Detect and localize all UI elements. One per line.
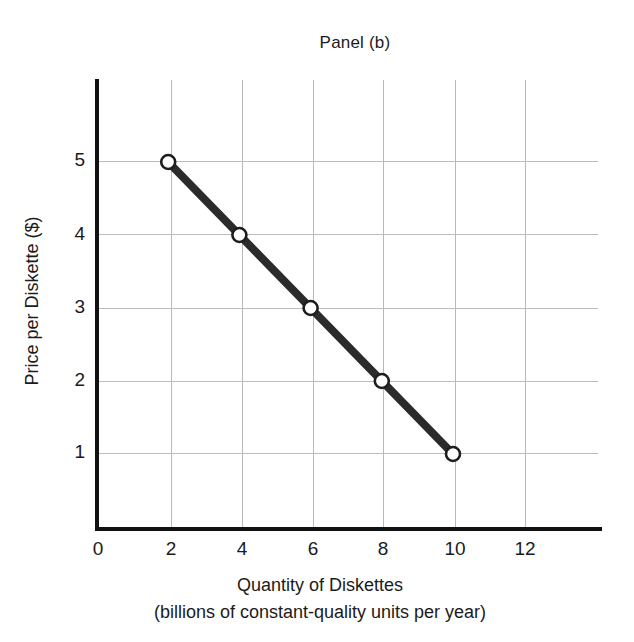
gridline-horizontal bbox=[97, 381, 598, 382]
gridline-vertical bbox=[455, 80, 456, 527]
y-axis-label: Price per Diskette ($) bbox=[21, 141, 43, 461]
gridline-horizontal bbox=[97, 161, 598, 162]
x-tick-label-0: 0 bbox=[78, 537, 118, 561]
gridline-horizontal bbox=[97, 308, 598, 309]
gridline-horizontal bbox=[97, 453, 598, 454]
x-tick-label-2: 2 bbox=[151, 537, 191, 561]
y-tick-label-5: 5 bbox=[53, 148, 85, 172]
x-axis-label: Quantity of Diskettes (billions of const… bbox=[60, 572, 580, 626]
x-axis-label-main: Quantity of Diskettes bbox=[237, 575, 403, 595]
x-axis-label-subtitle: (billions of constant-quality units per … bbox=[60, 599, 580, 626]
y-tick-label-3: 3 bbox=[53, 295, 85, 319]
x-axis-line bbox=[95, 527, 602, 531]
gridline-vertical bbox=[313, 80, 314, 527]
y-tick-label-2: 2 bbox=[53, 368, 85, 392]
chart-figure: Panel (b) 5 4 3 2 1 0 2 4 6 8 10 12 Pric… bbox=[0, 0, 634, 642]
x-tick-label-8: 8 bbox=[363, 537, 403, 561]
x-tick-label-12: 12 bbox=[505, 537, 545, 561]
x-tick-label-10: 10 bbox=[435, 537, 475, 561]
plot-area bbox=[97, 80, 600, 527]
chart-title: Panel (b) bbox=[0, 32, 634, 54]
x-tick-label-4: 4 bbox=[222, 537, 262, 561]
y-axis-line bbox=[95, 79, 99, 531]
chart-title-text: Panel (b) bbox=[320, 33, 391, 52]
gridline-vertical bbox=[383, 80, 384, 527]
y-tick-label-4: 4 bbox=[53, 222, 85, 246]
gridline-vertical bbox=[242, 80, 243, 527]
gridline-vertical bbox=[525, 80, 526, 527]
gridline-vertical bbox=[171, 80, 172, 527]
y-tick-label-1: 1 bbox=[53, 440, 85, 464]
gridline-horizontal bbox=[97, 234, 598, 235]
x-tick-label-6: 6 bbox=[293, 537, 333, 561]
